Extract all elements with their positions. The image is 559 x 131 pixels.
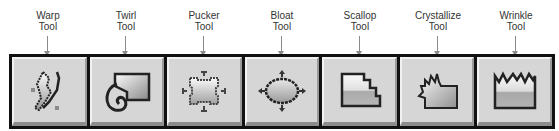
callout-arrow-icon [515, 36, 516, 52]
pucker-icon [176, 66, 232, 116]
callout-scallop: Scallop Tool [321, 10, 399, 32]
callout-arrow-icon [281, 36, 282, 52]
crystallize-icon [409, 66, 465, 116]
callout-arrow-icon [359, 36, 360, 52]
scallop-tool-button[interactable] [322, 57, 397, 126]
callout-arrow-icon [203, 36, 204, 52]
callout-label: Tool [321, 21, 399, 32]
callout-arrow-icon [437, 36, 438, 52]
wrinkle-icon [487, 66, 543, 116]
callout-wrinkle: Wrinkle Tool [477, 10, 555, 32]
callout-label: Tool [243, 21, 321, 32]
callout-label: Wrinkle [477, 10, 555, 21]
callout-twirl: Twirl Tool [87, 10, 165, 32]
callout-label: Tool [477, 21, 555, 32]
warp-icon [21, 66, 77, 116]
callout-warp: Warp Tool [9, 10, 87, 32]
twirl-icon [99, 66, 155, 116]
callout-label: Bloat [243, 10, 321, 21]
crystallize-tool-button[interactable] [400, 57, 475, 126]
callout-label: Twirl [87, 10, 165, 21]
callout-arrow-icon [47, 36, 48, 52]
callout-label: Crystallize [399, 10, 477, 21]
callout-label: Tool [87, 21, 165, 32]
bloat-icon [254, 66, 310, 116]
callout-bloat: Bloat Tool [243, 10, 321, 32]
wrinkle-tool-button[interactable] [477, 57, 552, 126]
twirl-tool-button[interactable] [90, 57, 165, 126]
pucker-tool-button[interactable] [167, 57, 242, 126]
liquify-tool-strip [9, 54, 555, 129]
callout-crystallize: Crystallize Tool [399, 10, 477, 32]
scallop-icon [332, 66, 388, 116]
bloat-tool-button[interactable] [245, 57, 320, 126]
callout-label: Pucker [165, 10, 243, 21]
callout-label: Tool [399, 21, 477, 32]
callout-label: Tool [9, 21, 87, 32]
callout-pucker: Pucker Tool [165, 10, 243, 32]
warp-tool-button[interactable] [12, 57, 87, 126]
callout-label: Warp [9, 10, 87, 21]
callout-label: Scallop [321, 10, 399, 21]
callout-label: Tool [165, 21, 243, 32]
callout-arrow-icon [125, 36, 126, 52]
